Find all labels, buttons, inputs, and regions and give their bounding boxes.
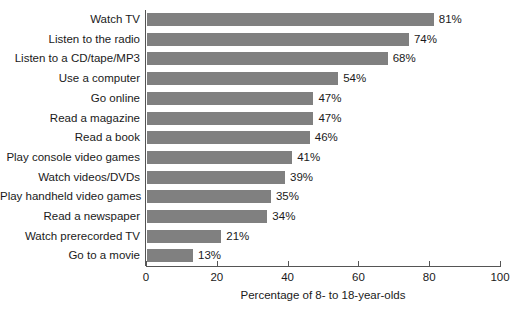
bar-value-label: 34%: [272, 208, 295, 224]
category-label: Listen to the radio: [0, 31, 140, 47]
bar: [147, 13, 434, 26]
bar-row: 21%: [146, 227, 500, 247]
plot-area: 81%74%68%54%47%47%46%41%39%35%34%21%13%: [146, 10, 500, 266]
bar-row: 81%: [146, 10, 500, 30]
x-tick-label: 60: [338, 269, 378, 285]
bar-row: 54%: [146, 69, 500, 89]
bar: [147, 171, 285, 184]
x-tick-label: 100: [480, 269, 520, 285]
bar: [147, 151, 292, 164]
bar-value-label: 74%: [414, 31, 437, 47]
bar: [147, 190, 271, 203]
x-tick-label: 40: [268, 269, 308, 285]
bar-rows: 81%74%68%54%47%47%46%41%39%35%34%21%13%: [146, 10, 500, 266]
x-tick-mark: [288, 261, 289, 267]
bar-row: 39%: [146, 168, 500, 188]
bar-value-label: 41%: [297, 149, 320, 165]
x-axis-title: Percentage of 8- to 18-year-olds: [146, 288, 500, 302]
bar-value-label: 39%: [290, 169, 313, 185]
bar-row: 34%: [146, 207, 500, 227]
x-tick-mark: [358, 261, 359, 267]
bar-row: 46%: [146, 128, 500, 148]
bar-value-label: 81%: [439, 11, 462, 27]
bar-row: 35%: [146, 187, 500, 207]
bar-value-label: 54%: [343, 70, 366, 86]
bar: [147, 249, 193, 262]
category-label: Watch TV: [0, 11, 140, 27]
bar: [147, 112, 313, 125]
bar: [147, 210, 267, 223]
x-tick-mark: [429, 261, 430, 267]
bar: [147, 230, 221, 243]
category-label: Read a newspaper: [0, 208, 140, 224]
category-label: Listen to a CD/tape/MP3: [0, 50, 140, 66]
bar-value-label: 46%: [315, 129, 338, 145]
bar: [147, 52, 388, 65]
bar-value-label: 21%: [226, 228, 249, 244]
x-tick-label: 0: [126, 269, 166, 285]
bar-value-label: 47%: [318, 110, 341, 126]
bar-value-label: 35%: [276, 188, 299, 204]
x-tick-mark: [217, 261, 218, 267]
category-label: Use a computer: [0, 70, 140, 86]
category-axis-labels: Watch TVListen to the radioListen to a C…: [0, 10, 140, 266]
category-label: Watch prerecorded TV: [0, 228, 140, 244]
bar-row: 74%: [146, 30, 500, 50]
bar: [147, 72, 338, 85]
category-label: Play console video games: [0, 149, 140, 165]
bar-row: 47%: [146, 109, 500, 129]
x-tick-label: 20: [197, 269, 237, 285]
bar-row: 68%: [146, 49, 500, 69]
category-label: Go online: [0, 90, 140, 106]
bar-row: 13%: [146, 246, 500, 266]
bar-chart: Watch TVListen to the radioListen to a C…: [0, 0, 520, 312]
bar: [147, 33, 409, 46]
x-tick-mark: [500, 261, 501, 267]
x-tick-mark: [146, 261, 147, 267]
bar-row: 41%: [146, 148, 500, 168]
category-label: Read a book: [0, 129, 140, 145]
bar-value-label: 68%: [393, 50, 416, 66]
category-label: Watch videos/DVDs: [0, 169, 140, 185]
x-tick-label: 80: [409, 269, 449, 285]
x-axis-line: [146, 266, 501, 267]
category-label: Read a magazine: [0, 110, 140, 126]
bar-value-label: 47%: [318, 90, 341, 106]
category-label: Go to a movie: [0, 247, 140, 263]
bar: [147, 131, 310, 144]
bar: [147, 92, 313, 105]
category-label: Play handheld video games: [0, 188, 140, 204]
bar-row: 47%: [146, 89, 500, 109]
